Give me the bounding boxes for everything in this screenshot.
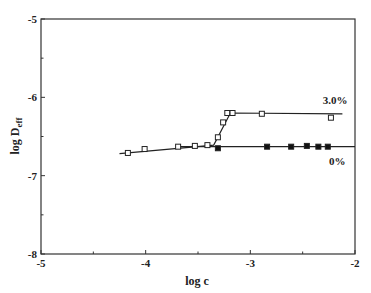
open-square-marker (328, 115, 333, 120)
plot-frame (41, 19, 355, 254)
filled-square-marker (325, 144, 330, 149)
y-tick-label: -8 (28, 248, 38, 260)
x-tick-label: -5 (36, 257, 46, 269)
y-axis-label: log Deff (8, 117, 24, 155)
y-tick-label: -5 (28, 13, 38, 25)
open-square-marker (176, 144, 181, 149)
open-square-marker (259, 111, 264, 116)
open-square-marker (192, 143, 197, 148)
open-square-marker (230, 111, 235, 116)
series-label: 3.0% (323, 94, 348, 106)
filled-square-marker (215, 146, 220, 151)
open-square-marker (215, 135, 220, 140)
filled-square-marker (265, 144, 270, 149)
data-points (125, 111, 333, 156)
axes-frame (41, 19, 355, 254)
x-tick-label: -4 (141, 257, 151, 269)
filled-square-marker (289, 144, 294, 149)
y-tick-label: -6 (28, 91, 38, 103)
open-square-marker (205, 143, 210, 148)
axis-ticks: -5-4-3-2-5-6-7-8 (28, 13, 360, 269)
open-square-marker (225, 111, 230, 116)
open-square-marker (142, 147, 147, 152)
open-square-marker (125, 150, 130, 155)
open-square-marker (221, 120, 226, 125)
x-tick-label: -2 (350, 257, 360, 269)
chart: -5-4-3-2-5-6-7-8 3.0%0% log c log Deff (0, 0, 371, 293)
filled-square-marker (316, 144, 321, 149)
y-tick-label: -7 (28, 170, 38, 182)
series-label: 0% (329, 155, 346, 167)
x-axis-label: log c (185, 274, 209, 288)
series-labels: 3.0%0% (323, 94, 348, 167)
x-tick-label: -3 (246, 257, 256, 269)
filled-square-marker (304, 143, 309, 148)
